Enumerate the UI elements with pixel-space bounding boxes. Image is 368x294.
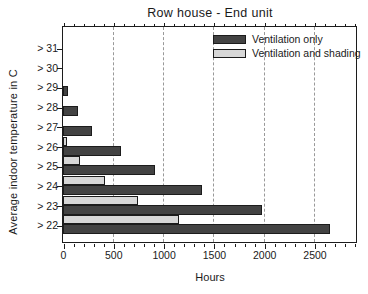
chart-title: Row house - End unit: [62, 6, 358, 20]
x-tick-top: [214, 23, 215, 27]
x-tick-top: [345, 24, 346, 27]
bar-ventilation-only-27: [63, 126, 92, 136]
x-tick-top: [184, 24, 185, 27]
y-tick-label: > 28: [20, 101, 58, 114]
x-tick-bottom: [275, 244, 276, 247]
x-tick-top: [104, 24, 105, 27]
x-tick-top: [255, 24, 256, 27]
legend-label-ventilation-only: Ventilation only: [252, 33, 323, 45]
x-tick-top: [305, 24, 306, 27]
y-tick-label: > 31: [20, 42, 58, 55]
legend-label-ventilation-and-shading: Ventilation and shading: [252, 47, 361, 59]
x-tick-bottom: [214, 244, 215, 249]
y-tick-label: > 30: [20, 62, 58, 75]
x-tick-bottom: [245, 244, 246, 247]
x-tick-top: [235, 24, 236, 27]
x-tick-label: 2500: [293, 249, 337, 261]
x-tick-bottom: [295, 244, 296, 247]
legend: Ventilation only Ventilation and shading: [213, 32, 361, 60]
legend-item-ventilation-only: Ventilation only: [213, 32, 361, 46]
bar-ventilation-only-29: [63, 86, 68, 96]
x-tick-top: [174, 24, 175, 27]
x-tick-bottom: [305, 244, 306, 247]
x-tick-bottom: [164, 244, 165, 249]
legend-swatch-ventilation-and-shading: [213, 49, 246, 58]
y-tick-label: > 25: [20, 160, 58, 173]
x-tick-bottom: [174, 244, 175, 247]
bar-ventilation-only-28: [63, 106, 78, 116]
x-tick-top: [84, 24, 85, 27]
x-tick-label: 2000: [243, 249, 287, 261]
y-tick-label: > 27: [20, 121, 58, 134]
y-tick-label: > 24: [20, 180, 58, 193]
x-tick-bottom: [104, 244, 105, 247]
x-tick-bottom: [224, 244, 225, 247]
x-tick-bottom: [345, 244, 346, 247]
legend-item-ventilation-and-shading: Ventilation and shading: [213, 46, 361, 60]
bar-ventilation-and-shading-25: [63, 156, 80, 165]
x-tick-top: [275, 24, 276, 27]
x-tick-bottom: [64, 244, 65, 249]
bar-ventilation-and-shading-26: [63, 137, 67, 146]
x-tick-bottom: [184, 244, 185, 247]
chart-figure: Row house - End unit Average indoor temp…: [0, 0, 368, 294]
bar-ventilation-and-shading-23: [63, 196, 138, 205]
x-tick-bottom: [94, 244, 95, 247]
x-tick-bottom: [265, 244, 266, 249]
x-tick-top: [154, 24, 155, 27]
x-tick-top: [335, 24, 336, 27]
bar-ventilation-and-shading-24: [63, 176, 105, 185]
plot-area: Ventilation only Ventilation and shading: [62, 26, 357, 243]
x-tick-label: 1000: [142, 249, 186, 261]
x-tick-top: [204, 24, 205, 27]
x-axis-title: Hours: [62, 271, 358, 283]
x-tick-bottom: [124, 244, 125, 247]
x-tick-top: [295, 24, 296, 27]
x-tick-top: [224, 24, 225, 27]
x-tick-bottom: [255, 244, 256, 247]
x-tick-top: [285, 24, 286, 27]
bar-ventilation-only-24: [63, 185, 202, 195]
x-tick-bottom: [315, 244, 316, 249]
x-tick-top: [245, 24, 246, 27]
x-tick-bottom: [204, 244, 205, 247]
x-tick-bottom: [114, 244, 115, 249]
x-tick-bottom: [235, 244, 236, 247]
x-tick-bottom: [144, 244, 145, 247]
y-tick-label: > 26: [20, 141, 58, 154]
x-tick-top: [114, 23, 115, 27]
x-tick-top: [64, 23, 65, 27]
x-tick-top: [74, 24, 75, 27]
bar-ventilation-only-22: [63, 224, 330, 234]
bar-ventilation-only-26: [63, 146, 121, 156]
x-tick-top: [265, 23, 266, 27]
x-tick-top: [315, 23, 316, 27]
x-tick-top: [144, 24, 145, 27]
x-tick-top: [134, 24, 135, 27]
x-tick-bottom: [194, 244, 195, 247]
x-tick-top: [194, 24, 195, 27]
bar-ventilation-and-shading-22: [63, 215, 179, 224]
x-tick-top: [355, 24, 356, 27]
x-tick-bottom: [355, 244, 356, 247]
legend-swatch-ventilation-only: [213, 35, 246, 44]
x-tick-top: [94, 24, 95, 27]
x-tick-label: 0: [42, 249, 86, 261]
x-tick-bottom: [325, 244, 326, 247]
y-tick-label: > 23: [20, 200, 58, 213]
y-tick-label: > 29: [20, 81, 58, 94]
x-tick-label: 1500: [192, 249, 236, 261]
x-tick-bottom: [285, 244, 286, 247]
x-tick-bottom: [335, 244, 336, 247]
x-tick-top: [164, 23, 165, 27]
x-tick-bottom: [134, 244, 135, 247]
bar-ventilation-only-25: [63, 165, 155, 175]
x-tick-top: [124, 24, 125, 27]
x-tick-bottom: [74, 244, 75, 247]
y-axis-title: Average indoor temperature in C: [7, 69, 19, 235]
y-tick-label: > 22: [20, 219, 58, 232]
x-tick-label: 500: [92, 249, 136, 261]
x-tick-bottom: [84, 244, 85, 247]
x-tick-top: [325, 24, 326, 27]
bar-ventilation-only-23: [63, 205, 262, 215]
